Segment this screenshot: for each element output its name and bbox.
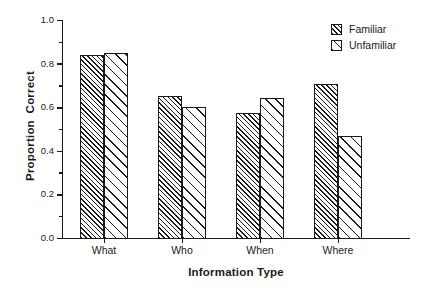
legend-item-familiar: Familiar bbox=[331, 22, 396, 36]
x-axis-title: Information Type bbox=[60, 266, 412, 278]
x-axis-tick-label-who: Who bbox=[142, 244, 222, 256]
chart-legend: FamiliarUnfamiliar bbox=[331, 22, 396, 54]
legend-item-unfamiliar: Unfamiliar bbox=[331, 38, 396, 52]
legend-label: Familiar bbox=[349, 24, 386, 35]
unfamiliar-swatch bbox=[331, 40, 342, 51]
x-axis-tick-label-where: Where bbox=[298, 244, 378, 256]
bar-chart-figure: Proportion Correct 1.00.80.60.40.20.0 Wh… bbox=[0, 0, 431, 288]
legend-label: Unfamiliar bbox=[349, 40, 396, 51]
x-axis-tick-label-when: When bbox=[220, 244, 300, 256]
familiar-swatch bbox=[331, 24, 342, 35]
x-axis-tick-label-what: What bbox=[64, 244, 144, 256]
